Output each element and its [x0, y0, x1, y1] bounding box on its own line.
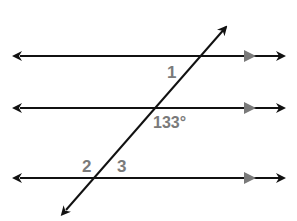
parallel-marker-icon	[244, 50, 256, 62]
angle-133-label: 133°	[153, 114, 186, 131]
diagram-canvas: 1 133° 2 3	[0, 0, 297, 221]
angle-2-label: 2	[82, 157, 91, 176]
parallel-line-top	[20, 50, 284, 62]
parallel-lines-diagram: 1 133° 2 3	[0, 0, 297, 221]
parallel-line-bottom	[20, 172, 284, 184]
parallel-marker-icon	[244, 172, 256, 184]
angle-1-label: 1	[167, 63, 176, 82]
parallel-marker-icon	[244, 102, 256, 114]
angle-3-label: 3	[117, 157, 126, 176]
transversal-line	[66, 27, 226, 210]
